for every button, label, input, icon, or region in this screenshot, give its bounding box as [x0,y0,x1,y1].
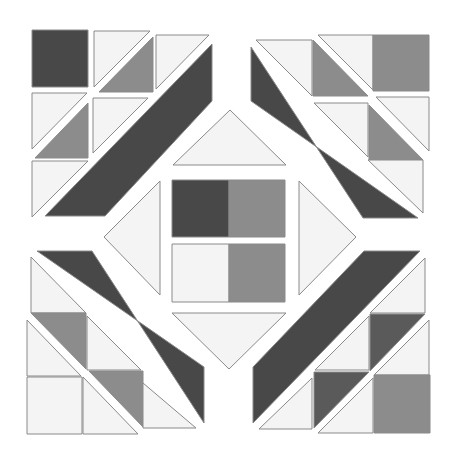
center-light-square [172,244,229,302]
bottom-right-mid-square [374,375,430,433]
quilt-block-canvas [0,0,451,457]
center-mid-square [229,244,285,302]
center-dark-square [172,180,229,237]
bottom-left-light-square [27,377,82,434]
top-left-dark-square [32,30,88,87]
top-right-mid-square [373,35,429,91]
center-mid-square [229,180,285,237]
